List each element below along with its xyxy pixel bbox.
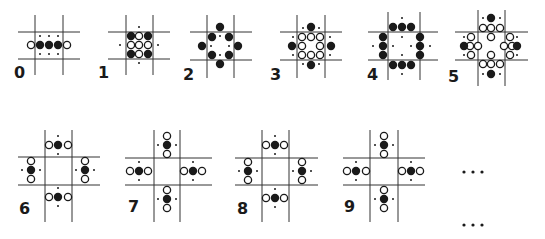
empty-site-dot: [228, 45, 230, 47]
filled-circle: [144, 32, 152, 40]
filled-circle: [407, 61, 415, 69]
empty-site-dot: [302, 27, 304, 29]
filled-circle: [327, 42, 335, 50]
open-circle: [298, 158, 305, 165]
empty-site-dot: [463, 36, 465, 38]
open-circle: [244, 176, 251, 183]
open-circle: [316, 51, 323, 58]
open-circle: [479, 60, 486, 67]
empty-site-dot: [93, 169, 95, 171]
open-circle: [506, 33, 513, 40]
filled-circle: [54, 141, 62, 149]
empty-site-dot: [355, 179, 357, 181]
open-circle: [316, 42, 323, 49]
empty-site-dot: [39, 35, 41, 37]
filled-circle: [81, 166, 89, 174]
filled-circle: [144, 50, 152, 58]
open-circle: [474, 42, 481, 49]
filled-circle: [163, 141, 171, 149]
empty-site-dot: [274, 188, 276, 190]
filled-circle: [398, 23, 406, 31]
open-circle: [64, 141, 71, 148]
panel-1: 1: [98, 15, 170, 82]
empty-site-dot: [192, 179, 194, 181]
filled-circle: [54, 193, 62, 201]
open-circle: [298, 176, 305, 183]
empty-site-dot: [499, 73, 501, 75]
panel-0: 0: [14, 15, 80, 82]
filled-circle: [416, 42, 424, 50]
empty-site-dot: [157, 198, 159, 200]
panel-label: 3: [270, 65, 281, 84]
empty-site-dot: [374, 198, 376, 200]
open-circle: [64, 193, 71, 200]
open-circle: [163, 186, 170, 193]
filled-circle: [225, 51, 233, 59]
empty-site-dot: [175, 198, 177, 200]
ellipsis-dot: [480, 223, 483, 226]
filled-circle: [127, 32, 135, 40]
empty-site-dot: [57, 35, 59, 37]
open-circle: [45, 193, 52, 200]
empty-site-dot: [157, 144, 159, 146]
empty-site-dot: [374, 144, 376, 146]
panel-9: 9: [343, 130, 425, 222]
filled-circle: [45, 41, 53, 49]
open-circle: [316, 33, 323, 40]
open-circle: [45, 141, 52, 148]
empty-site-dot: [274, 206, 276, 208]
ellipsis-dot: [462, 223, 465, 226]
empty-site-dot: [39, 53, 41, 55]
panel-label: 4: [367, 65, 378, 84]
empty-site-dot: [499, 17, 501, 19]
filled-circle: [36, 41, 44, 49]
empty-site-dot: [355, 161, 357, 163]
empty-site-dot: [219, 35, 221, 37]
open-circle: [180, 167, 187, 174]
filled-circle: [460, 42, 468, 50]
open-circle: [343, 167, 350, 174]
empty-site-dot: [292, 170, 294, 172]
filled-circle: [163, 195, 171, 203]
panel-label: 8: [237, 199, 248, 218]
empty-site-dot: [75, 169, 77, 171]
filled-circle: [307, 23, 315, 31]
filled-circle: [416, 51, 424, 59]
empty-site-dot: [401, 17, 403, 19]
filled-circle: [379, 42, 387, 50]
filled-circle: [380, 195, 388, 203]
filled-circle: [288, 42, 296, 50]
filled-circle: [208, 51, 216, 59]
open-circle: [496, 60, 503, 67]
panel-7: 7: [125, 130, 212, 222]
empty-site-dot: [274, 153, 276, 155]
open-circle: [380, 150, 387, 157]
filled-circle: [244, 167, 252, 175]
open-circle: [487, 60, 494, 67]
empty-site-dot: [410, 45, 412, 47]
empty-site-dot: [57, 53, 59, 55]
open-circle: [467, 33, 474, 40]
open-circle: [198, 167, 205, 174]
empty-site-dot: [516, 36, 518, 38]
empty-site-dot: [57, 187, 59, 189]
open-circle: [307, 51, 314, 58]
empty-site-dot: [57, 153, 59, 155]
filled-circle: [407, 167, 415, 175]
empty-site-dot: [318, 27, 320, 29]
filled-circle: [271, 194, 279, 202]
panel-label: 0: [14, 63, 25, 82]
empty-site-dot: [392, 144, 394, 146]
ellipsis-dot: [462, 170, 465, 173]
empty-site-dot: [318, 63, 320, 65]
open-circle: [487, 24, 494, 31]
empty-site-dot: [175, 144, 177, 146]
panel-3: 3: [270, 15, 342, 84]
empty-site-dot: [429, 45, 431, 47]
filled-circle: [352, 167, 360, 175]
empty-site-dot: [48, 35, 50, 37]
open-circle: [280, 141, 287, 148]
empty-site-dot: [210, 45, 212, 47]
empty-site-dot: [219, 54, 221, 56]
filled-circle: [216, 60, 224, 68]
